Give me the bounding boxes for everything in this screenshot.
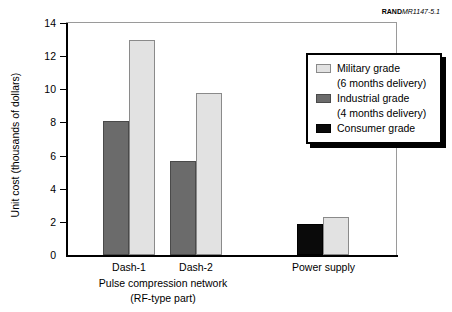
x-axis-caption-line-2: (RF-type part) <box>63 292 263 304</box>
y-tick-label-2: 2 <box>26 217 56 227</box>
legend-item-military: Military grade <box>316 62 432 75</box>
bar-chart-figure: RANDMR1147-5.1 Unit cost (thousands of d… <box>0 0 452 312</box>
y-tick-label-0: 0 <box>26 250 56 260</box>
legend-label-industrial: Industrial grade <box>337 92 409 105</box>
chart-legend: Military grade (6 months delivery) Indus… <box>306 53 442 144</box>
x-axis-caption-line-1: Pulse compression network <box>63 277 263 289</box>
bar-dash-1-industrial-grade <box>103 121 129 255</box>
bar-dash-2-industrial-grade <box>170 161 196 255</box>
legend-swatch-industrial-icon <box>316 94 331 103</box>
y-tick-label-6: 6 <box>26 151 56 161</box>
y-tick-label-4: 4 <box>26 184 56 194</box>
x-group-label-dash-2: Dash-2 <box>156 261 236 273</box>
legend-sublabel-industrial: (4 months delivery) <box>337 107 432 120</box>
y-tick-label-8: 8 <box>26 117 56 127</box>
y-axis-title: Unit cost (thousands of dollars) <box>9 45 21 245</box>
legend-label-consumer: Consumer grade <box>337 122 415 135</box>
source-identifier-brand: RAND <box>382 8 402 15</box>
x-group-label-power-supply: Power supply <box>271 261 376 273</box>
bar-power-supply-consumer-grade <box>297 224 323 255</box>
legend-sublabel-military: (6 months delivery) <box>337 77 432 90</box>
y-tick-label-14: 14 <box>26 18 56 28</box>
legend-swatch-consumer-icon <box>316 124 331 133</box>
bar-dash-2-military-grade <box>196 93 222 255</box>
y-tick-label-10: 10 <box>26 84 56 94</box>
source-identifier-number: MR1147-5.1 <box>402 8 440 15</box>
legend-label-military: Military grade <box>337 62 400 75</box>
bar-power-supply-military-grade <box>323 217 349 255</box>
legend-swatch-military-icon <box>316 64 331 73</box>
legend-item-consumer: Consumer grade <box>316 122 432 135</box>
bar-dash-1-military-grade <box>129 40 155 255</box>
legend-item-industrial: Industrial grade <box>316 92 432 105</box>
y-tick-label-12: 12 <box>26 51 56 61</box>
source-identifier: RANDMR1147-5.1 <box>382 8 440 15</box>
